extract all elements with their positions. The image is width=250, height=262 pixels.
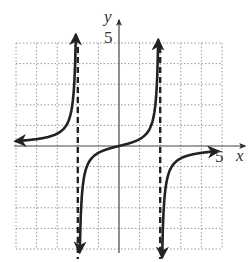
y-axis-label: y — [102, 7, 112, 26]
curve-left-branch — [16, 35, 76, 141]
rational-function-graph: y 5 5 x — [0, 0, 250, 262]
y-tick-label-5: 5 — [104, 28, 113, 47]
x-tick-label-5: 5 — [215, 147, 224, 166]
x-axis-label: x — [235, 146, 244, 165]
chart-container: y 5 5 x — [0, 0, 250, 262]
